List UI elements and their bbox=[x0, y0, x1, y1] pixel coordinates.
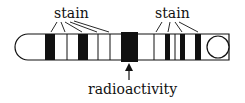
stain-leader-lines-left bbox=[51, 21, 109, 32]
stain-band-5 bbox=[195, 34, 201, 60]
stain-label-left: stain bbox=[54, 5, 89, 21]
radioactivity-arrow-icon bbox=[125, 63, 133, 80]
radioactive-band bbox=[121, 32, 138, 62]
chromosome-diagram: stain stain radioactivity bbox=[0, 0, 245, 103]
stain-leader-lines-right bbox=[156, 22, 198, 32]
chromosome bbox=[15, 32, 229, 62]
radioactivity-label: radioactivity bbox=[88, 81, 177, 97]
stain-band-4 bbox=[180, 34, 185, 60]
stain-band-1 bbox=[45, 34, 55, 60]
stain-band-3 bbox=[165, 34, 170, 60]
centromere-circle bbox=[207, 36, 229, 58]
stain-label-right: stain bbox=[155, 5, 190, 21]
stain-band-2 bbox=[78, 34, 88, 60]
